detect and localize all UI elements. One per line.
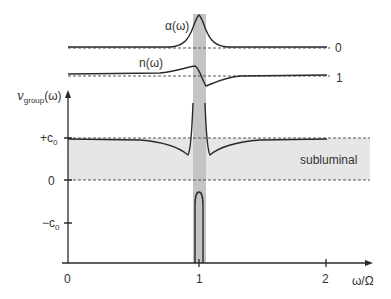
- subluminal-label: subluminal: [300, 153, 357, 167]
- ytick-zero: 0: [48, 174, 55, 188]
- n-baseline-label: 1: [336, 71, 343, 85]
- y-axis-arrow-icon: [65, 90, 71, 98]
- x-axis-arrow-icon: [365, 260, 373, 266]
- xtick-1: 1: [196, 272, 203, 286]
- alpha-label: α(ω): [165, 19, 189, 33]
- ytick-minus-c0: −c0: [42, 216, 60, 232]
- x-axis-label: ω/Ω: [352, 274, 374, 288]
- ytick-plus-c0: +c0: [40, 131, 58, 147]
- alpha-baseline-label: 0: [335, 41, 342, 55]
- n-label: n(ω): [139, 56, 163, 70]
- y-axis-label: vgroup(ω): [17, 89, 62, 105]
- xtick-2: 2: [322, 272, 329, 286]
- dispersion-diagram: α(ω) 0 n(ω) 1 +c0 0 −c0 vgroup(ω) 0 1 2 …: [0, 0, 391, 299]
- xtick-0: 0: [64, 272, 71, 286]
